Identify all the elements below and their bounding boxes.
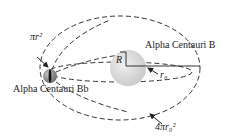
- star-label: Alpha Centauri B: [145, 40, 216, 50]
- planet-cross-section: [49, 69, 52, 83]
- diagram-canvas: [0, 0, 236, 138]
- sphere-area-label: 4πr₀²: [155, 122, 175, 132]
- planet-area-arrow: [37, 57, 48, 67]
- orbit-radius-arrow: [148, 68, 158, 74]
- planet-area-label: πr²: [30, 32, 42, 42]
- planet-label: Alpha Centauri Bb: [13, 84, 89, 94]
- star-radius-label: R: [116, 55, 122, 65]
- orbit-radius-label: r₀: [160, 70, 167, 80]
